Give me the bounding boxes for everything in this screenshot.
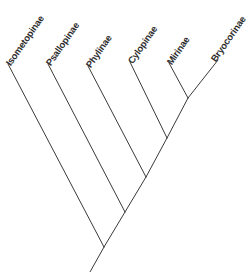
branch-cylapinae (130, 62, 167, 138)
branch-internal-phylinae-clade (125, 177, 146, 212)
branch-internal-cylapinae-clade (146, 138, 167, 177)
branch-isometopinae (8, 64, 104, 247)
branch-bryocorinae (188, 60, 218, 98)
branch-mirinae (169, 63, 188, 98)
branch-internal-psallopinae-clade (104, 212, 125, 247)
branch-phylinae (88, 66, 146, 177)
branch-root-stem (90, 247, 104, 272)
cladogram-tree (0, 0, 250, 272)
branch-internal-mirinae-bryocorinae (167, 98, 188, 138)
cladogram-figure: IsometopinaePsallopinaePhylinaeCylopinae… (0, 0, 250, 272)
branch-psallopinae (48, 64, 125, 212)
branch-layer (8, 60, 218, 272)
